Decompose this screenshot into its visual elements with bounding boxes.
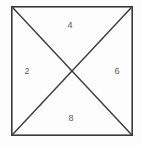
figure-container: 4 2 6 8 — [0, 0, 142, 146]
region-label-bottom: 8 — [68, 114, 73, 123]
region-label-left: 2 — [24, 67, 29, 76]
region-label-top: 4 — [67, 21, 72, 30]
region-label-right: 6 — [114, 67, 119, 76]
